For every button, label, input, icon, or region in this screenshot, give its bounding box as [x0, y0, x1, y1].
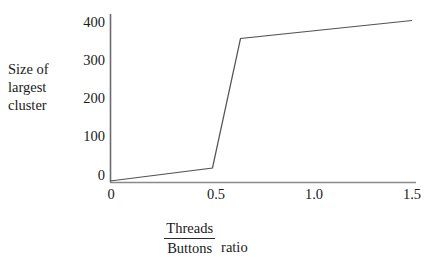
x-tick-label-1-0: 1.0: [305, 187, 323, 202]
data-line-largest-cluster: [110, 21, 412, 182]
x-tick-label-1-5: 1.5: [403, 187, 421, 202]
x-axis-title-fraction: Threads Buttons: [164, 220, 215, 257]
x-tick-label-0-5: 0.5: [207, 187, 225, 202]
y-tick-label-400: 400: [60, 15, 105, 30]
x-tick-label-0: 0: [107, 187, 114, 202]
x-axis-tick-labels: 0 0.5 1.0 1.5: [0, 187, 440, 209]
chart-figure: Size of largest cluster 400 300 200 100 …: [0, 0, 440, 273]
y-tick-label-0: 0: [60, 168, 105, 183]
x-axis-title-denominator: Buttons: [165, 239, 214, 257]
y-tick-label-300: 300: [60, 53, 105, 68]
x-axis-title: Threads Buttons ratio: [0, 220, 440, 257]
y-tick-label-100: 100: [60, 129, 105, 144]
x-axis-title-numerator: Threads: [164, 220, 215, 239]
y-tick-label-200: 200: [60, 91, 105, 106]
x-axis-title-suffix: ratio: [221, 239, 248, 257]
